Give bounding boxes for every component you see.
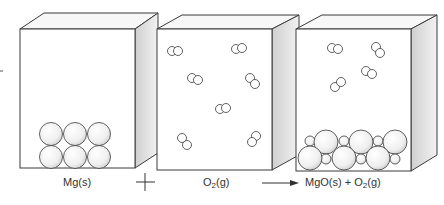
mg-atoms	[40, 123, 111, 169]
label-mg: Mg(s)	[63, 176, 91, 188]
box-mg	[20, 13, 158, 168]
box-o2	[157, 15, 299, 170]
reaction-arrow	[262, 180, 299, 186]
label-product: MgO(s) + O2(g)	[305, 176, 381, 190]
label-o2: O2(g)	[203, 176, 229, 190]
plus-sign	[136, 173, 155, 191]
reaction-diagram	[0, 0, 444, 205]
